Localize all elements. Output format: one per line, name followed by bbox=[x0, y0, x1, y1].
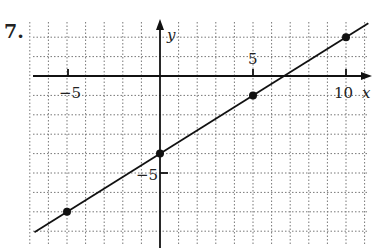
y-axis-label: y bbox=[166, 26, 176, 44]
data-point bbox=[63, 208, 71, 216]
data-point bbox=[156, 150, 164, 158]
tick-label-y-neg5: −5 bbox=[136, 166, 158, 184]
tick-label-5: 5 bbox=[248, 50, 258, 68]
data-point bbox=[249, 91, 257, 99]
graph-line bbox=[34, 23, 368, 232]
x-axis-arrow-icon bbox=[361, 72, 372, 80]
x-axis-label: x bbox=[362, 84, 371, 102]
y-axis-arrow-icon bbox=[156, 19, 164, 30]
coordinate-plane: −5 5 10 x y −5 bbox=[0, 0, 383, 251]
tick-label-x-10: 10 bbox=[334, 84, 353, 102]
tick-label-x-neg5: −5 bbox=[59, 84, 81, 102]
data-series bbox=[34, 23, 368, 232]
data-point bbox=[342, 33, 350, 41]
